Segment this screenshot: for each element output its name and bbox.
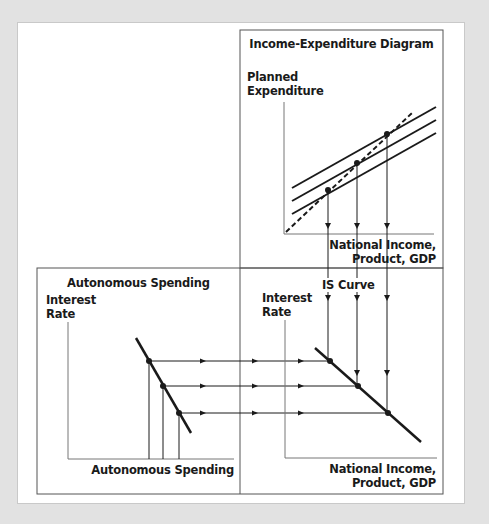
ie-x-label-line1: National Income, — [300, 238, 436, 252]
as-y-label-line1: Interest — [46, 293, 96, 307]
as-title: Autonomous Spending — [37, 276, 240, 290]
is-x-label-line1: National Income, — [300, 462, 436, 476]
ie-title: Income-Expenditure Diagram — [240, 37, 443, 51]
is-x-label-line2: Product, GDP — [300, 476, 436, 490]
ie-y-label-line1: Planned — [247, 70, 298, 84]
ie-planned-expenditure-lines — [292, 107, 436, 214]
income-expenditure-frame — [240, 30, 443, 268]
as-x-label: Autonomous Spending — [60, 463, 234, 477]
is-y-label-line1: Interest — [262, 291, 312, 305]
as-axes — [68, 322, 234, 459]
ie-y-label-line2: Expenditure — [247, 84, 324, 98]
as-drop-lines — [149, 361, 179, 459]
horizontal-arrowheads — [200, 359, 304, 416]
ie-x-label-line2: Product, GDP — [300, 252, 436, 266]
horizontal-projection-lines — [149, 361, 387, 413]
is-y-label-line2: Rate — [262, 305, 291, 319]
is-title: IS Curve — [320, 278, 377, 292]
as-y-label-line2: Rate — [46, 307, 75, 321]
